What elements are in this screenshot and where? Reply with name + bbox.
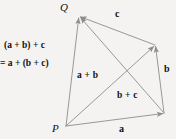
vector-label-a-plus-b: a + b: [77, 71, 98, 81]
vector-label-b: b: [164, 64, 170, 74]
associativity-expression: (a + b) + c = a + (b + c): [4, 41, 78, 68]
vector-label-b-plus-c: b + c: [117, 91, 138, 101]
associativity-expression-line-1: (a + b) + c: [4, 41, 78, 51]
vector-diagram-figure: Q P c b a a + b b + c (a + b) + c = a + …: [0, 0, 176, 139]
point-label-q: Q: [60, 2, 68, 13]
vector-a-arrow: [66, 114, 163, 127]
vector-b-arrow: [156, 47, 164, 114]
vector-label-a: a: [119, 124, 124, 134]
associativity-expression-line-2: = a + (b + c): [0, 59, 78, 69]
vector-label-c: c: [115, 9, 120, 19]
point-label-p: P: [52, 123, 59, 134]
